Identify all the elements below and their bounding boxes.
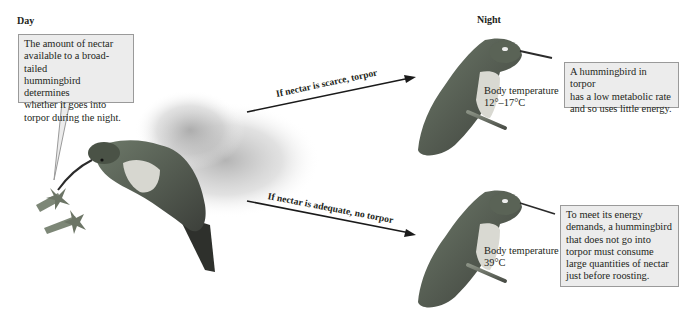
day-callout-box: The amount of nectar available to a broa… <box>18 34 134 103</box>
callout-line: whether it goes into <box>24 99 128 111</box>
callout-line: hummingbird determines <box>24 75 128 100</box>
torpor-temperature: Body temperature 12°–17°C <box>484 85 559 109</box>
callout-line: large quantities of nectar <box>566 258 673 270</box>
callout-line: To meet its energy <box>566 209 673 221</box>
temperature-label: Body temperature <box>484 85 559 97</box>
callout-line: has a low metabolic rate <box>570 91 673 103</box>
night-heading: Night <box>477 14 501 25</box>
callout-line: and so uses little energy. <box>570 103 673 115</box>
temperature-label: Body temperature <box>484 245 559 257</box>
callout-line: demands, a hummingbird <box>566 221 673 233</box>
temperature-value: 39°C <box>484 257 559 269</box>
callout-line: available to a broad-tailed <box>24 50 128 75</box>
torpor-callout-box: A hummingbird in torpor has a low metabo… <box>564 62 679 108</box>
callout-line: A hummingbird in torpor <box>570 66 673 91</box>
callout-line: torpor must consume <box>566 246 673 258</box>
active-temperature: Body temperature 39°C <box>484 245 559 269</box>
callout-line: torpor during the night. <box>24 112 128 124</box>
flower-illustration <box>36 188 86 234</box>
temperature-value: 12°–17°C <box>484 97 559 109</box>
day-heading: Day <box>17 15 34 26</box>
no-torpor-callout-box: To meet its energy demands, a hummingbir… <box>560 205 679 287</box>
callout-line: The amount of nectar <box>24 38 128 50</box>
callout-line: that does not go into <box>566 234 673 246</box>
callout-line: just before roosting. <box>566 270 673 282</box>
